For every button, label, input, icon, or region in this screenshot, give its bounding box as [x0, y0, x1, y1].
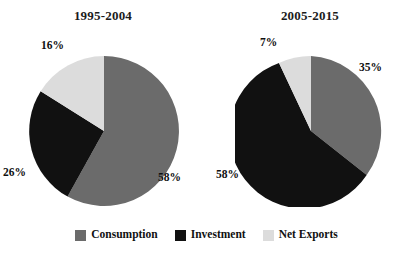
legend-label-net-exports: Net Exports [279, 229, 338, 241]
legend-label-investment: Investment [191, 229, 246, 241]
panel-title-left: 1995-2004 [0, 8, 206, 24]
pie-chart-figure: 1995-2004 58% 26% 16% 2005-2015 [0, 0, 413, 259]
chart-panel-1995-2004: 1995-2004 58% 26% 16% [0, 0, 206, 222]
chart-panel-2005-2015: 2005-2015 35% 58% 7% [207, 0, 413, 222]
legend-swatch-investment-icon [175, 230, 186, 241]
pie-left-label-investment: 26% [3, 166, 26, 178]
legend-item-net-exports: Net Exports [263, 229, 338, 241]
pie-right-label-consumption: 35% [359, 61, 382, 73]
chart-legend: Consumption Investment Net Exports [0, 224, 413, 246]
legend-swatch-consumption-icon [75, 230, 86, 241]
legend-swatch-net-exports-icon [263, 230, 274, 241]
pie-left-svg [28, 55, 180, 207]
pie-right [235, 55, 387, 207]
pie-right-label-net-exports: 7% [260, 36, 277, 48]
panel-title-right: 2005-2015 [207, 8, 413, 24]
legend-item-investment: Investment [175, 229, 246, 241]
pie-left-label-net-exports: 16% [41, 39, 64, 51]
pie-right-svg [235, 55, 387, 207]
legend-item-consumption: Consumption [75, 229, 157, 241]
pie-left [28, 55, 180, 207]
pie-right-label-investment: 58% [216, 168, 239, 180]
legend-label-consumption: Consumption [91, 229, 157, 241]
pie-left-label-consumption: 58% [158, 171, 181, 183]
